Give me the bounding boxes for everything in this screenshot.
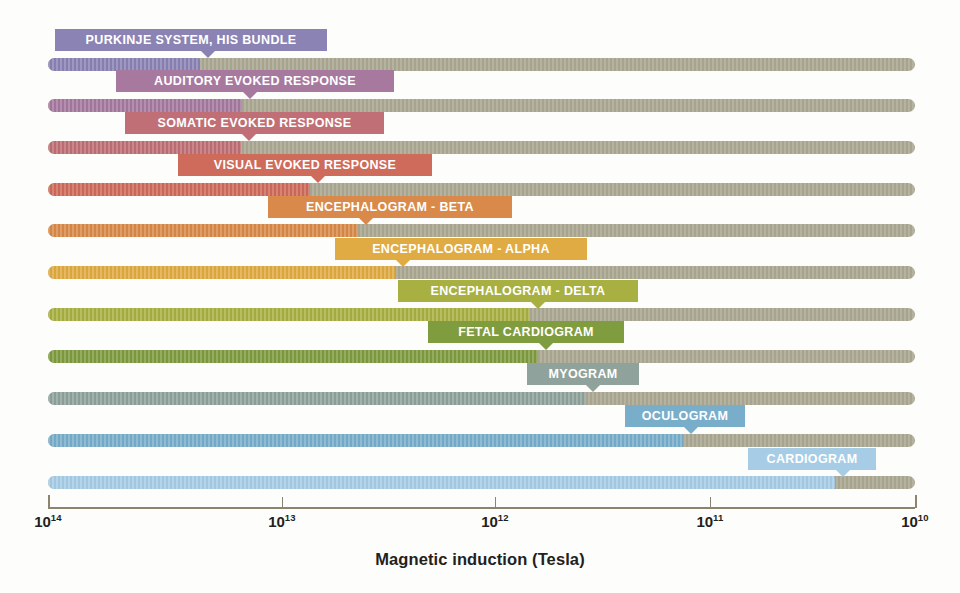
bar-label-text: VISUAL EVOKED RESPONSE [214, 158, 397, 172]
bar-row [48, 266, 915, 279]
bar-row [48, 183, 915, 196]
bar-label-text: FETAL CARDIOGRAM [458, 325, 594, 339]
bar-fill [48, 434, 683, 447]
bar-label-callout: AUDITORY EVOKED RESPONSE [116, 70, 394, 92]
bar-row [48, 141, 915, 154]
bar-fill [48, 141, 241, 154]
callout-pointer-icon [310, 175, 326, 183]
bar-label-text: ENCEPHALOGRAM - BETA [306, 200, 474, 214]
callout-pointer-icon [538, 342, 554, 350]
tick-base: 10 [481, 513, 498, 530]
tick-base: 10 [901, 513, 918, 530]
bar-label-text: AUDITORY EVOKED RESPONSE [154, 74, 356, 88]
bar-row [48, 434, 915, 447]
bar-row [48, 224, 915, 237]
axis-cap-left [48, 495, 50, 508]
callout-pointer-icon [585, 384, 601, 392]
bar-label-callout: SOMATIC EVOKED RESPONSE [125, 112, 384, 134]
bar-fill [48, 224, 358, 237]
bar-label-text: PURKINJE SYSTEM, HIS BUNDLE [86, 33, 297, 47]
axis-tick-label: 1013 [268, 512, 296, 530]
bar-fill [48, 183, 310, 196]
axis-cap-right [915, 495, 917, 508]
axis-tick-label: 1014 [34, 512, 62, 530]
bar-fill [48, 392, 585, 405]
bar-label-callout: ENCEPHALOGRAM - ALPHA [335, 238, 587, 260]
bar-row [48, 308, 915, 321]
bar-label-callout: FETAL CARDIOGRAM [428, 321, 624, 343]
axis-tick [495, 497, 496, 508]
bar-label-callout: ENCEPHALOGRAM - BETA [268, 196, 512, 218]
bar-label-text: SOMATIC EVOKED RESPONSE [158, 116, 352, 130]
axis-tick-label: 1012 [481, 512, 509, 530]
bar-row [48, 476, 915, 489]
axis-tick-label: 1010 [901, 512, 929, 530]
bar-fill [48, 99, 242, 112]
bar-label-callout: MYOGRAM [527, 363, 639, 385]
bar-label-text: OCULOGRAM [642, 409, 728, 423]
bar-label-callout: PURKINJE SYSTEM, HIS BUNDLE [55, 29, 327, 51]
tick-exponent: 14 [51, 512, 62, 523]
callout-pointer-icon [241, 133, 257, 141]
tick-exponent: 10 [918, 512, 929, 523]
bar-row [48, 350, 915, 363]
axis-title: Magnetic induction (Tesla) [0, 550, 960, 569]
bar-label-text: ENCEPHALOGRAM - ALPHA [372, 242, 550, 256]
axis-tick [282, 497, 283, 508]
callout-pointer-icon [242, 91, 258, 99]
tick-exponent: 11 [713, 512, 723, 523]
tick-base: 10 [34, 513, 51, 530]
bar-fill [48, 350, 538, 363]
bar-row [48, 99, 915, 112]
bar-row [48, 392, 915, 405]
bar-label-text: ENCEPHALOGRAM - DELTA [431, 284, 606, 298]
bar-fill [48, 308, 530, 321]
axis-tick [710, 497, 711, 508]
callout-pointer-icon [683, 426, 699, 434]
bar-label-callout: VISUAL EVOKED RESPONSE [178, 154, 432, 176]
magnetic-induction-chart: PURKINJE SYSTEM, HIS BUNDLEAUDITORY EVOK… [0, 0, 960, 593]
bar-fill [48, 266, 395, 279]
bar-label-text: CARDIOGRAM [767, 452, 858, 466]
bar-fill [48, 476, 835, 489]
tick-base: 10 [696, 513, 713, 530]
axis-line [48, 507, 915, 509]
tick-base: 10 [268, 513, 285, 530]
bar-label-callout: ENCEPHALOGRAM - DELTA [398, 280, 638, 302]
bar-label-callout: CARDIOGRAM [748, 448, 876, 470]
bar-label-text: MYOGRAM [548, 367, 617, 381]
bar-label-callout: OCULOGRAM [625, 405, 745, 427]
tick-exponent: 12 [498, 512, 509, 523]
tick-exponent: 13 [285, 512, 296, 523]
callout-pointer-icon [200, 50, 216, 58]
axis-tick-label: 1011 [696, 512, 723, 530]
